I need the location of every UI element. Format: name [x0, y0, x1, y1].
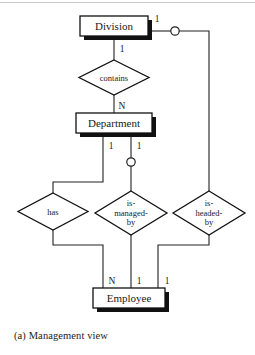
edge-department-to-has — [53, 135, 103, 193]
cardinality-employee-is-headed-by: 1 — [165, 276, 170, 286]
entity-employee-label: Employee — [107, 292, 152, 304]
cardinality-employee-is-managed-by: 1 — [137, 276, 142, 286]
cardinality-department-has: 1 — [109, 141, 114, 151]
relationship-contains-label: contains — [100, 73, 128, 83]
relationship-is-managed-by-line2: managed- — [114, 208, 148, 218]
entity-department-label: Department — [88, 117, 140, 129]
relationship-is-managed-by-line3: by — [127, 217, 136, 227]
relationship-is-headed-by-line2: headed- — [196, 208, 223, 218]
cardinality-department-is-managed-by: 1 — [137, 141, 142, 151]
relationship-is-headed-by-line3: by — [205, 217, 214, 227]
cardinality-contains-department: N — [119, 101, 126, 111]
connector-circle-division-headed-by — [171, 27, 179, 35]
cardinality-division-is-headed-by: 1 — [155, 14, 160, 24]
relationship-is-headed-by-line1: is- — [205, 198, 214, 208]
edge-has-to-employee — [53, 230, 103, 288]
entity-division-label: Division — [95, 20, 133, 32]
er-diagram-figure: contains has is- managed- by is- headed-… — [0, 0, 255, 355]
er-diagram-canvas: contains has is- managed- by is- headed-… — [0, 0, 255, 355]
edge-division-to-is-headed-by — [179, 31, 209, 191]
relationship-has-label: has — [47, 207, 58, 217]
cardinality-employee-has: N — [109, 276, 116, 286]
relationship-is-managed-by-line1: is- — [127, 198, 136, 208]
cardinality-division-contains: 1 — [120, 44, 125, 54]
figure-caption: (a) Management view — [14, 330, 108, 341]
connector-circle-department-managed-by — [127, 158, 135, 166]
